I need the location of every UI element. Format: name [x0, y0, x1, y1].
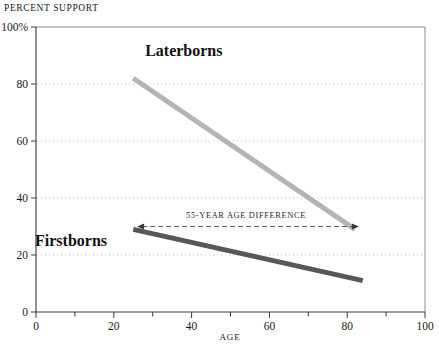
y-tick-label: 20: [17, 249, 29, 261]
x-tick-label: 20: [108, 320, 120, 332]
chart-figure: PERCENT SUPPORT 020406080100 02040608010…: [0, 0, 439, 357]
gridlines-group: [37, 84, 424, 255]
annotation-label: 55-YEAR AGE DIFFERENCE: [186, 211, 306, 220]
annotations-group: 55-YEAR AGE DIFFERENCE: [137, 210, 359, 230]
x-tick-label: 0: [33, 320, 39, 332]
y-tick-label: 100%: [1, 21, 28, 33]
x-axis-title: AGE: [219, 332, 240, 342]
data-series-group: LaterbornsFirstborns: [35, 42, 363, 281]
series-label-firstborns: Firstborns: [35, 232, 107, 249]
series-line-laterborns: [133, 78, 355, 229]
y-axis-title: PERCENT SUPPORT: [4, 3, 99, 13]
x-tick-label: 80: [341, 320, 353, 332]
x-tick-label: 60: [264, 320, 276, 332]
y-tick-label: 80: [17, 78, 29, 90]
series-label-laterborns: Laterborns: [145, 42, 222, 59]
chart-canvas: 020406080100 020406080100% LaterbornsFir…: [0, 0, 439, 357]
series-line-firstborns: [133, 229, 363, 280]
plot-frame: [36, 27, 425, 312]
x-tick-label: 100: [416, 320, 434, 332]
x-tick-label: 40: [186, 320, 198, 332]
y-axis-ticks-group: 020406080100%: [1, 21, 36, 318]
y-tick-label: 40: [17, 192, 29, 204]
x-axis-ticks-group: 020406080100: [33, 312, 434, 332]
y-tick-label: 0: [22, 306, 28, 318]
y-tick-label: 60: [17, 135, 29, 147]
